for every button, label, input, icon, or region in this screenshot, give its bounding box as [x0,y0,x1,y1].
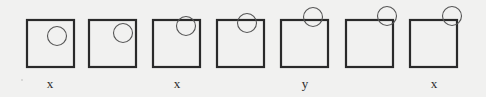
frame-3 [153,17,200,68]
square-shape [281,20,328,67]
circle-shape [443,7,462,26]
circle-shape [114,24,133,43]
square-shape [89,20,136,67]
diagram-canvas [0,0,486,97]
circle-shape [304,8,323,27]
circle-shape [238,14,257,33]
frame-5 [281,8,328,68]
frame-4 [217,14,264,68]
scan-speck [21,79,23,81]
frame-label-5: y [302,77,309,90]
frame-7 [410,7,462,68]
square-shape [346,20,393,67]
frame-label-7: x [431,77,438,90]
frame-6 [346,7,397,68]
frame-label-3: x [174,77,181,90]
frame-2 [89,20,136,67]
frame-label-1: x [47,77,54,90]
circle-shape [378,7,397,26]
circle-shape [48,27,67,46]
square-circle-sequence-diagram: x x y x [0,0,486,97]
square-shape [217,20,264,67]
square-shape [410,20,457,67]
frame-1 [27,20,74,67]
